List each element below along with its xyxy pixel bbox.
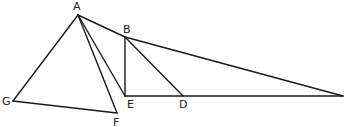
point-label-d: D: [179, 98, 187, 111]
point-label-g: G: [2, 95, 11, 108]
segment-bc: [125, 37, 343, 96]
point-label-f: F: [113, 116, 119, 127]
geometry-diagram: A B E D F G: [0, 0, 349, 127]
segments-group: [13, 15, 343, 113]
segment-gf: [13, 101, 117, 113]
segment-bd: [125, 37, 183, 96]
point-label-e: E: [127, 98, 134, 111]
segment-af: [78, 15, 117, 113]
point-label-a: A: [73, 0, 81, 13]
segment-ae: [78, 15, 125, 96]
point-label-b: B: [123, 23, 131, 36]
segment-ag: [13, 15, 78, 101]
labels-group: A B E D F G: [2, 0, 187, 127]
